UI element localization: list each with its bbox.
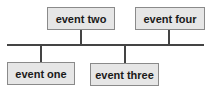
connector-event-one bbox=[40, 46, 42, 62]
timeline-axis bbox=[7, 44, 204, 46]
connector-event-two bbox=[80, 29, 82, 44]
timeline-diagram: event two event four event one event thr… bbox=[0, 0, 213, 92]
event-box-one: event one bbox=[7, 62, 75, 85]
event-label: event three bbox=[95, 69, 154, 81]
connector-event-four bbox=[168, 30, 170, 44]
event-label: event two bbox=[56, 13, 107, 25]
event-box-two: event two bbox=[47, 7, 115, 30]
event-label: event one bbox=[15, 68, 66, 80]
event-box-three: event three bbox=[90, 63, 159, 86]
connector-event-three bbox=[124, 46, 126, 63]
event-box-four: event four bbox=[135, 7, 205, 30]
event-label: event four bbox=[143, 13, 196, 25]
